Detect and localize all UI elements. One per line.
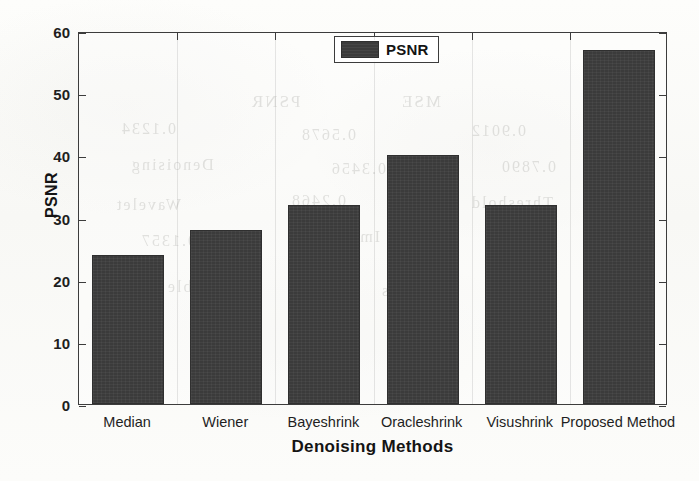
y-tick-label: 0 <box>62 397 70 414</box>
bar-median <box>92 255 164 404</box>
legend-label-psnr: PSNR <box>386 41 428 58</box>
y-tick-label: 50 <box>53 86 70 103</box>
x-tick-mark <box>472 33 473 40</box>
y-tick-mark <box>659 157 666 158</box>
y-tick-label: 60 <box>53 24 70 41</box>
y-tick-mark <box>659 33 666 34</box>
legend-swatch-psnr <box>341 41 379 58</box>
chart-legend: PSNR <box>334 36 439 63</box>
y-tick-mark <box>79 282 86 283</box>
y-tick-mark <box>79 33 86 34</box>
x-category-label: Wiener <box>202 414 248 430</box>
y-tick-mark <box>79 157 86 158</box>
y-tick-mark <box>659 344 666 345</box>
x-axis-category-labels: MedianWienerBayeshrinkOracleshrinkVisush… <box>0 414 699 436</box>
y-tick-mark <box>79 220 86 221</box>
x-category-label: Bayeshrink <box>288 414 360 430</box>
bar-bayeshrink <box>288 205 360 404</box>
y-tick-label: 20 <box>53 272 70 289</box>
gridline-vertical <box>472 33 473 404</box>
bar-wiener <box>190 230 262 404</box>
x-tick-mark <box>177 33 178 40</box>
gridline-vertical <box>275 33 276 404</box>
y-tick-mark <box>79 95 86 96</box>
psnr-bar-chart-figure: PSNRMSE0.12340.56780.9012Denoising0.3456… <box>0 0 699 481</box>
x-category-label: Oracleshrink <box>381 414 462 430</box>
gridline-vertical <box>374 33 375 404</box>
gridline-vertical <box>177 33 178 404</box>
y-axis-title: PSNR <box>43 135 61 255</box>
y-tick-mark <box>79 344 86 345</box>
y-tick-mark <box>659 95 666 96</box>
x-category-label: Proposed Method <box>561 414 675 430</box>
y-tick-mark <box>79 406 86 407</box>
gridline-vertical <box>570 33 571 404</box>
bar-proposed-method <box>583 50 655 404</box>
x-tick-mark <box>570 33 571 40</box>
x-category-label: Visushrink <box>486 414 553 430</box>
bar-visushrink <box>485 205 557 404</box>
x-tick-mark <box>275 33 276 40</box>
y-tick-mark <box>659 282 666 283</box>
x-axis-title: Denoising Methods <box>78 437 667 457</box>
bar-oracleshrink <box>387 155 459 404</box>
y-tick-label: 10 <box>53 334 70 351</box>
x-category-label: Median <box>103 414 151 430</box>
y-tick-mark <box>659 406 666 407</box>
y-tick-mark <box>659 220 666 221</box>
plot-area <box>78 32 667 405</box>
